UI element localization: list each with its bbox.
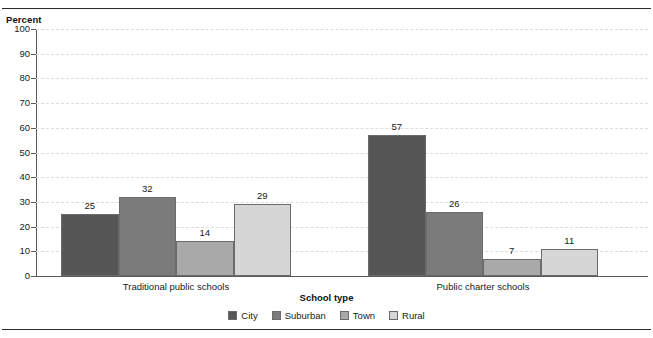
y-axis-tick-label: 0	[2, 271, 30, 281]
bottom-divider-rule	[2, 329, 651, 330]
legend-swatch-icon	[272, 311, 281, 320]
y-axis-tick-label: 80	[2, 73, 30, 83]
y-axis-tick-label: 30	[2, 197, 30, 207]
chart-legend: CitySuburbanTownRural	[0, 310, 653, 321]
x-axis-group-label: Public charter schools	[338, 281, 628, 292]
y-axis-tick-label: 10	[2, 246, 30, 256]
y-axis-tick-labels: 0102030405060708090100	[0, 29, 653, 277]
y-axis-tick-label: 90	[2, 49, 30, 59]
y-axis-tick-label: 20	[2, 222, 30, 232]
y-axis-tick-label: 70	[2, 98, 30, 108]
legend-item[interactable]: Town	[340, 310, 375, 321]
x-axis-title: School type	[0, 292, 653, 303]
y-axis-tick-label: 100	[2, 24, 30, 34]
legend-swatch-icon	[340, 311, 349, 320]
y-axis-tick-label: 60	[2, 123, 30, 133]
legend-label: Rural	[402, 310, 425, 321]
legend-item[interactable]: Rural	[389, 310, 425, 321]
y-axis-tick-label: 40	[2, 172, 30, 182]
legend-item[interactable]: City	[228, 310, 257, 321]
chart-figure: Percent 253214295726711 0102030405060708…	[0, 0, 653, 338]
y-axis-tick-label: 50	[2, 148, 30, 158]
legend-label: Suburban	[285, 310, 326, 321]
legend-swatch-icon	[389, 311, 398, 320]
legend-label: Town	[353, 310, 375, 321]
legend-item[interactable]: Suburban	[272, 310, 326, 321]
legend-swatch-icon	[228, 311, 237, 320]
x-axis-group-label: Traditional public schools	[31, 281, 321, 292]
top-divider-rule	[2, 8, 651, 9]
legend-label: City	[241, 310, 257, 321]
